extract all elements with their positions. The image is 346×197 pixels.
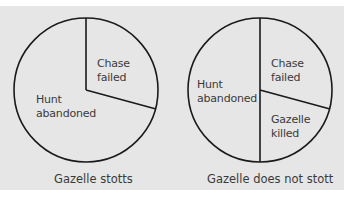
label-line: Gazelle bbox=[271, 113, 310, 127]
slice-label-gazelle-killed: Gazelle killed bbox=[271, 113, 310, 141]
label-line: Hunt bbox=[197, 78, 257, 92]
label-line: failed bbox=[271, 71, 304, 85]
label-line: Chase bbox=[271, 57, 304, 71]
label-line: Hunt bbox=[36, 93, 96, 107]
chart-caption-gazelle-does-not-stott: Gazelle does not stott bbox=[207, 172, 333, 186]
label-line: Chase bbox=[97, 57, 130, 71]
label-line: failed bbox=[97, 71, 130, 85]
label-line: abandoned bbox=[36, 107, 96, 121]
chart-caption-gazelle-stotts: Gazelle stotts bbox=[54, 172, 133, 186]
slice-divider bbox=[86, 90, 156, 109]
slice-divider bbox=[260, 90, 330, 109]
slice-label-hunt-abandoned: Hunt abandoned bbox=[197, 78, 257, 106]
slice-label-chase-failed: Chase failed bbox=[97, 57, 130, 85]
label-line: killed bbox=[271, 127, 310, 141]
slice-label-chase-failed: Chase failed bbox=[271, 57, 304, 85]
slice-label-hunt-abandoned: Hunt abandoned bbox=[36, 93, 96, 121]
label-line: abandoned bbox=[197, 92, 257, 106]
pie-chart-gazelle-stotts bbox=[14, 18, 158, 162]
